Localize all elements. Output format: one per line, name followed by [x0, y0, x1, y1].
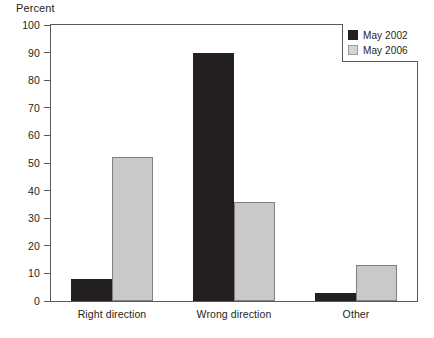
y-axis-tick-label: 60 — [28, 130, 40, 141]
legend-item: May 2002 — [348, 28, 414, 42]
x-axis-category-label: Other — [295, 308, 417, 320]
y-axis-tick-label: 80 — [28, 75, 40, 86]
bar — [193, 53, 234, 301]
y-axis-tick-label: 20 — [28, 241, 40, 252]
y-axis-tick-label: 30 — [28, 213, 40, 224]
y-axis-tick-mark — [44, 301, 50, 302]
bars-layer — [51, 25, 417, 301]
y-axis-tick-mark — [44, 107, 50, 108]
y-axis-tick-mark — [44, 25, 50, 26]
x-axis-category-label: Wrong direction — [173, 308, 295, 320]
y-axis-tick-mark — [44, 52, 50, 53]
y-axis-tick-mark — [44, 190, 50, 191]
legend-item: May 2006 — [348, 43, 414, 57]
bar — [356, 265, 397, 301]
y-axis-title: Percent — [16, 2, 55, 15]
y-axis-tick-mark — [44, 245, 50, 246]
bar-chart: Percent 0102030405060708090100 Right dir… — [0, 0, 434, 338]
chart-legend: May 2002 May 2006 — [342, 24, 418, 62]
legend-item-label: May 2006 — [363, 45, 408, 56]
bar — [112, 157, 153, 301]
y-axis-tick-label: 100 — [22, 20, 40, 31]
y-axis-tick-mark — [44, 80, 50, 81]
y-axis-tick-label: 0 — [34, 296, 40, 307]
bar — [234, 202, 275, 301]
bar — [71, 279, 112, 301]
x-axis-category-label: Right direction — [51, 308, 173, 320]
y-axis-tick-label: 10 — [28, 268, 40, 279]
legend-swatch-icon — [348, 45, 358, 55]
legend-item-label: May 2002 — [363, 30, 408, 41]
y-axis-tick-mark — [44, 218, 50, 219]
y-axis-tick-mark — [44, 135, 50, 136]
legend-swatch-icon — [348, 30, 358, 40]
y-axis-tick-label: 50 — [28, 158, 40, 169]
y-axis-tick-mark — [44, 163, 50, 164]
y-axis-tick-label: 70 — [28, 103, 40, 114]
bar — [315, 293, 356, 301]
y-axis-tick-mark — [44, 273, 50, 274]
y-axis-tick-label: 90 — [28, 48, 40, 59]
y-axis-tick-label: 40 — [28, 186, 40, 197]
